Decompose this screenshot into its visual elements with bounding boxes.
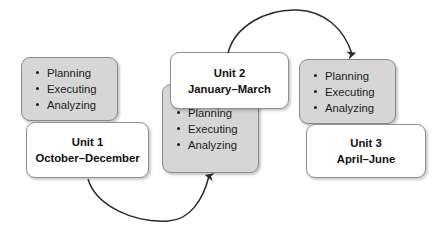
list-item: Executing <box>314 84 375 100</box>
list-item: Executing <box>36 81 97 97</box>
unit-3-bullets-card: Planning Executing Analyzing <box>299 59 396 124</box>
list-item: Analyzing <box>314 100 375 116</box>
list-item: Analyzing <box>177 137 238 153</box>
bullet-dot-icon <box>177 127 180 130</box>
bullet-dot-icon <box>314 74 317 77</box>
bullet-dot-icon <box>36 71 39 74</box>
bullet-label: Executing <box>325 86 375 98</box>
unit-1-bullets-card: Planning Executing Analyzing <box>21 57 118 121</box>
bullet-dot-icon <box>314 90 317 93</box>
bullet-label: Analyzing <box>325 102 374 114</box>
unit-2-title-block: Unit 2 January–March <box>171 65 288 97</box>
arrow-unit1-to-unit2 <box>88 176 209 221</box>
bullet-label: Executing <box>47 83 97 95</box>
list-item: Analyzing <box>36 97 97 113</box>
unit-1-bullet-list: Planning Executing Analyzing <box>36 65 97 113</box>
unit-2-title-card: Unit 2 January–March <box>170 52 289 109</box>
list-item: Executing <box>177 121 238 137</box>
unit-3-name: Unit 3 <box>307 135 425 151</box>
bullet-label: Analyzing <box>47 99 96 111</box>
unit-1-title-block: Unit 1 October–December <box>27 134 148 166</box>
unit-1-name: Unit 1 <box>27 134 148 150</box>
unit-3-bullet-list: Planning Executing Analyzing <box>314 68 375 116</box>
unit-2-bullet-list: Planning Executing Analyzing <box>177 105 238 153</box>
bullet-dot-icon <box>177 143 180 146</box>
unit-3-title-block: Unit 3 April–June <box>307 135 425 167</box>
bullet-label: Planning <box>47 67 91 79</box>
list-item: Planning <box>36 65 97 81</box>
bullet-dot-icon <box>314 106 317 109</box>
unit-1-title-card: Unit 1 October–December <box>26 122 149 178</box>
unit-3-period: April–June <box>307 151 425 167</box>
unit-1-period: October–December <box>27 150 148 166</box>
unit-3-title-card: Unit 3 April–June <box>306 124 426 178</box>
bullet-label: Executing <box>188 123 238 135</box>
arrow-unit2-to-unit3 <box>228 10 352 54</box>
bullet-label: Analyzing <box>188 139 237 151</box>
bullet-dot-icon <box>36 103 39 106</box>
unit-cycle-diagram: Planning Executing Analyzing Unit 1 Octo… <box>0 0 443 233</box>
unit-2-period: January–March <box>171 81 288 97</box>
bullet-dot-icon <box>177 111 180 114</box>
list-item: Planning <box>314 68 375 84</box>
bullet-dot-icon <box>36 87 39 90</box>
unit-2-name: Unit 2 <box>171 65 288 81</box>
bullet-label: Planning <box>325 70 369 82</box>
